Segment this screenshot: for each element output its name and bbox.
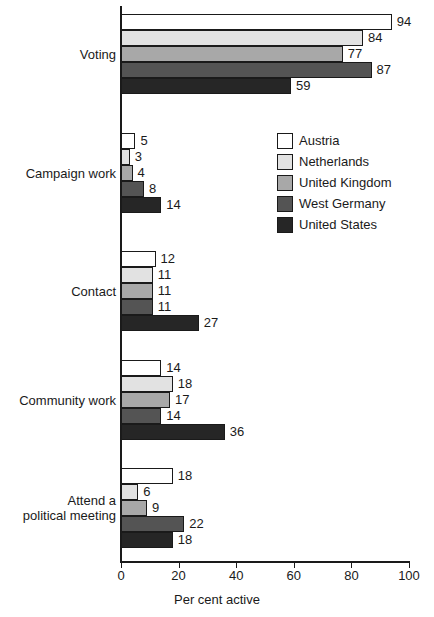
bar-row: 84 bbox=[0, 30, 434, 46]
legend-swatch-icon bbox=[277, 175, 293, 191]
bar-value-label: 5 bbox=[140, 133, 147, 149]
category-label: Campaign work bbox=[0, 166, 116, 181]
bar-value-label: 27 bbox=[204, 315, 218, 331]
legend-swatch-icon bbox=[277, 133, 293, 149]
bar[interactable] bbox=[121, 251, 156, 267]
bar[interactable] bbox=[121, 78, 291, 94]
bar-value-label: 77 bbox=[348, 46, 362, 62]
legend-item[interactable]: United States bbox=[277, 214, 392, 235]
bar[interactable] bbox=[121, 424, 225, 440]
bar-row: 27 bbox=[0, 315, 434, 331]
bar-value-label: 87 bbox=[377, 62, 391, 78]
bar-row: 11 bbox=[0, 299, 434, 315]
bar-row: 18 bbox=[0, 468, 434, 484]
bar-value-label: 14 bbox=[166, 197, 180, 213]
x-tick-label: 60 bbox=[274, 568, 314, 583]
bar-value-label: 9 bbox=[152, 500, 159, 516]
legend-label: West Germany bbox=[299, 196, 385, 211]
bar-row: 36 bbox=[0, 424, 434, 440]
bar[interactable] bbox=[121, 376, 173, 392]
bar[interactable] bbox=[121, 500, 147, 516]
bar-value-label: 14 bbox=[166, 408, 180, 424]
legend-swatch-icon bbox=[277, 196, 293, 212]
bar-value-label: 11 bbox=[158, 267, 172, 283]
x-tick-label: 40 bbox=[216, 568, 256, 583]
bar[interactable] bbox=[121, 197, 161, 213]
bar[interactable] bbox=[121, 267, 153, 283]
bar[interactable] bbox=[121, 408, 161, 424]
bar-value-label: 84 bbox=[368, 30, 382, 46]
legend-item[interactable]: West Germany bbox=[277, 193, 392, 214]
bar-value-label: 3 bbox=[135, 149, 142, 165]
bar-row: 14 bbox=[0, 408, 434, 424]
legend-label: Netherlands bbox=[299, 154, 369, 169]
category-label: Contact bbox=[0, 284, 116, 299]
category-label: Community work bbox=[0, 393, 116, 408]
bar-row: 59 bbox=[0, 78, 434, 94]
x-tick-label: 20 bbox=[159, 568, 199, 583]
legend-label: Austria bbox=[299, 133, 339, 148]
bar[interactable] bbox=[121, 283, 153, 299]
x-axis-line bbox=[120, 561, 410, 563]
x-axis-title: Per cent active bbox=[0, 592, 434, 607]
bar-value-label: 17 bbox=[175, 392, 189, 408]
bar[interactable] bbox=[121, 133, 135, 149]
bar-value-label: 18 bbox=[178, 468, 192, 484]
bar-value-label: 12 bbox=[161, 251, 175, 267]
bar-row: 87 bbox=[0, 62, 434, 78]
bar-row: 18 bbox=[0, 532, 434, 548]
bar[interactable] bbox=[121, 149, 130, 165]
bar[interactable] bbox=[121, 315, 199, 331]
bar-value-label: 22 bbox=[189, 516, 203, 532]
bar-value-label: 94 bbox=[397, 14, 411, 30]
bar-value-label: 11 bbox=[158, 283, 172, 299]
chart-legend: AustriaNetherlandsUnited KingdomWest Ger… bbox=[277, 130, 392, 235]
bar-row: 12 bbox=[0, 251, 434, 267]
bar-value-label: 11 bbox=[158, 299, 172, 315]
bar-value-label: 18 bbox=[178, 532, 192, 548]
bar[interactable] bbox=[121, 532, 173, 548]
legend-item[interactable]: Netherlands bbox=[277, 151, 392, 172]
bar-value-label: 4 bbox=[138, 165, 145, 181]
legend-label: United States bbox=[299, 217, 377, 232]
bar-value-label: 6 bbox=[143, 484, 150, 500]
legend-item[interactable]: Austria bbox=[277, 130, 392, 151]
x-tick-label: 100 bbox=[389, 568, 429, 583]
bar-value-label: 8 bbox=[149, 181, 156, 197]
x-tick-label: 80 bbox=[331, 568, 371, 583]
bar[interactable] bbox=[121, 181, 144, 197]
category-label: Attend a political meeting bbox=[0, 493, 116, 523]
category-label: Voting bbox=[0, 47, 116, 62]
bar-row: 14 bbox=[0, 360, 434, 376]
legend-swatch-icon bbox=[277, 217, 293, 233]
bar-value-label: 36 bbox=[230, 424, 244, 440]
legend-swatch-icon bbox=[277, 154, 293, 170]
bar-row: 94 bbox=[0, 14, 434, 30]
legend-item[interactable]: United Kingdom bbox=[277, 172, 392, 193]
bar[interactable] bbox=[121, 165, 133, 181]
bar-value-label: 14 bbox=[166, 360, 180, 376]
bar[interactable] bbox=[121, 392, 170, 408]
bar[interactable] bbox=[121, 468, 173, 484]
bar-row: 11 bbox=[0, 267, 434, 283]
bar-value-label: 59 bbox=[296, 78, 310, 94]
bar[interactable] bbox=[121, 484, 138, 500]
bar-chart: 020406080100 9484778759Voting534814Campa… bbox=[0, 0, 434, 617]
bar[interactable] bbox=[121, 360, 161, 376]
bar[interactable] bbox=[121, 516, 184, 532]
bar[interactable] bbox=[121, 14, 392, 30]
bar[interactable] bbox=[121, 46, 343, 62]
legend-label: United Kingdom bbox=[299, 175, 392, 190]
bar[interactable] bbox=[121, 62, 372, 78]
x-tick-label: 0 bbox=[101, 568, 141, 583]
bar-row: 18 bbox=[0, 376, 434, 392]
bar-value-label: 18 bbox=[178, 376, 192, 392]
bar[interactable] bbox=[121, 30, 363, 46]
bar[interactable] bbox=[121, 299, 153, 315]
